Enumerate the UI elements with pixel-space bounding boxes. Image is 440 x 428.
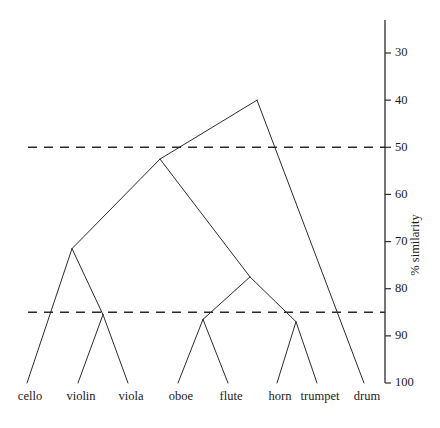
axis-tick-label-100: 100 bbox=[395, 375, 414, 389]
dendrogram-chart: 30405060708090100 celloviolinviolaoboefl… bbox=[0, 0, 440, 428]
dendro-branch-m5-m4 bbox=[250, 277, 296, 322]
dendro-branch-m3-flute bbox=[203, 319, 228, 383]
axis-tick-label-60: 60 bbox=[395, 187, 408, 201]
axis-tick-label-90: 90 bbox=[395, 328, 408, 342]
dendro-branch-m1-viola bbox=[103, 315, 128, 383]
dendro-branch-m7-m6 bbox=[160, 100, 257, 159]
leaf-labels: celloviolinviolaoboeflutehorntrumpetdrum bbox=[18, 389, 381, 403]
leaf-label-trumpet: trumpet bbox=[301, 389, 340, 403]
similarity-axis: 30405060708090100 bbox=[385, 20, 414, 389]
leaf-label-cello: cello bbox=[18, 389, 42, 403]
leaf-label-drum: drum bbox=[354, 389, 381, 403]
dendro-branch-m4-horn bbox=[277, 322, 296, 383]
dendro-branch-m7-drum bbox=[257, 100, 364, 383]
y-axis-title: % similarity bbox=[408, 214, 422, 276]
dendro-branch-m1-violin bbox=[78, 315, 103, 383]
axis-tick-label-70: 70 bbox=[395, 234, 408, 248]
dendro-branch-m2-m1 bbox=[72, 249, 103, 315]
leaf-label-flute: flute bbox=[220, 389, 243, 403]
axis-tick-label-50: 50 bbox=[395, 140, 408, 154]
dendro-branch-m2-cello bbox=[27, 249, 72, 383]
leaf-label-oboe: oboe bbox=[169, 389, 194, 403]
threshold-lines bbox=[28, 147, 385, 312]
axis-tick-label-40: 40 bbox=[395, 93, 408, 107]
leaf-label-viola: viola bbox=[119, 389, 144, 403]
dendro-branch-m3-oboe bbox=[178, 319, 203, 383]
dendro-branch-m6-m2 bbox=[72, 159, 160, 249]
leaf-label-horn: horn bbox=[269, 389, 293, 403]
axis-tick-label-80: 80 bbox=[395, 281, 408, 295]
dendrogram-tree bbox=[27, 100, 364, 383]
axis-tick-label-30: 30 bbox=[395, 45, 408, 59]
dendrogram-figure: 30405060708090100 celloviolinviolaoboefl… bbox=[0, 0, 440, 428]
dendro-branch-m6-m5 bbox=[160, 159, 250, 277]
dendro-branch-m4-trumpet bbox=[296, 322, 317, 383]
leaf-label-violin: violin bbox=[66, 389, 96, 403]
dendro-branch-m5-m3 bbox=[203, 277, 250, 319]
